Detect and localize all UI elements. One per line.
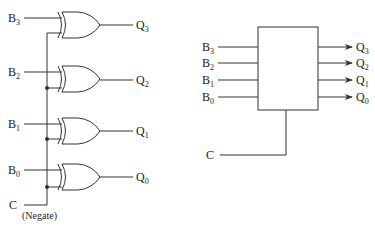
block-input-b2: B2 — [202, 56, 214, 72]
block-input-b0: B0 — [202, 90, 214, 106]
input-label-b0: B0 — [8, 163, 20, 179]
xor-gate-1 — [58, 118, 100, 144]
block-input-b1: B1 — [202, 73, 214, 89]
block-input-b3: B3 — [202, 40, 214, 56]
block-output-q0: Q0 — [356, 90, 369, 106]
output-label-q3: Q3 — [136, 18, 149, 34]
block-output-q1: Q1 — [356, 73, 369, 89]
output-label-q1: Q1 — [136, 124, 149, 140]
block-output-q2: Q2 — [356, 56, 369, 72]
block-output-q3: Q3 — [356, 40, 369, 56]
control-label-c: C — [9, 198, 17, 212]
xor-gate-3 — [58, 12, 100, 38]
output-label-q2: Q2 — [136, 73, 149, 89]
input-label-b3: B3 — [8, 11, 20, 27]
right-block-symbol: B3 B2 B1 B0 Q3 Q2 Q1 Q0 C — [202, 27, 369, 162]
left-circuit: B3 B2 B1 B0 Q3 Q2 Q1 Q0 C (Negate) — [8, 11, 149, 222]
junction-dot — [45, 185, 49, 189]
output-label-q0: Q0 — [136, 170, 149, 186]
diagram-canvas: B3 B2 B1 B0 Q3 Q2 Q1 Q0 C (Negate) B3 B2… — [0, 0, 375, 230]
control-bus — [24, 33, 47, 205]
block-control-line — [220, 110, 286, 155]
control-note-negate: (Negate) — [22, 210, 57, 222]
input-label-b1: B1 — [8, 117, 20, 133]
block-box — [258, 27, 318, 110]
junction-dot — [45, 137, 49, 141]
xor-gate-0 — [58, 164, 100, 190]
xor-gate-2 — [58, 66, 100, 92]
block-control-label-c: C — [206, 148, 214, 162]
junction-dot — [45, 86, 49, 90]
input-label-b2: B2 — [8, 65, 20, 81]
